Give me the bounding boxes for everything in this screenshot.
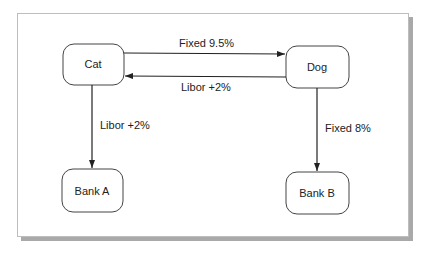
edge-label-cat-to-bank-a: Libor +2% [100, 119, 150, 131]
node-cat-label: Cat [84, 58, 101, 70]
edge-cat-to-dog [124, 53, 285, 54]
edge-label-dog-to-cat: Libor +2% [181, 81, 231, 93]
edge-dog-to-cat [125, 76, 286, 77]
edge-label-cat-to-dog: Fixed 9.5% [179, 37, 234, 49]
node-dog-label: Dog [307, 61, 327, 73]
edge-label-dog-to-bank-b: Fixed 8% [325, 122, 371, 134]
node-bank-a-label: Bank A [75, 185, 110, 197]
node-bank-b-label: Bank B [299, 187, 334, 199]
